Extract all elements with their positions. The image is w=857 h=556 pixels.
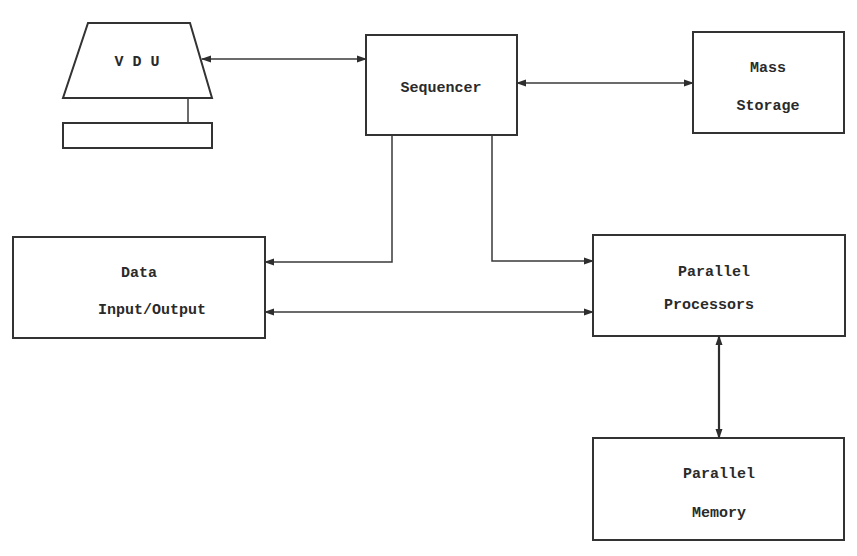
parallel-memory-box bbox=[593, 438, 844, 540]
mass-storage-label-line2: Storage bbox=[736, 98, 799, 115]
system-block-diagram: V D U Sequencer Mass Storage Data Input/… bbox=[0, 0, 857, 556]
parallel-processors-label-line1: Parallel bbox=[678, 264, 750, 281]
sequencer-label: Sequencer bbox=[400, 80, 481, 97]
vdu-keyboard-shape bbox=[63, 123, 212, 148]
parallel-processors-label-line2: Processors bbox=[664, 297, 754, 314]
data-io-node: Data Input/Output bbox=[13, 237, 265, 338]
parallel-processors-box bbox=[593, 235, 845, 336]
data-io-label-line1: Data bbox=[121, 265, 157, 282]
data-io-box bbox=[13, 237, 265, 338]
arrow-sequencer-parallel-processors bbox=[492, 135, 593, 261]
arrow-sequencer-data-io bbox=[265, 135, 392, 262]
vdu-label: V D U bbox=[114, 54, 159, 71]
mass-storage-node: Mass Storage bbox=[693, 32, 844, 133]
data-io-label-line2: Input/Output bbox=[98, 302, 206, 319]
parallel-memory-label-line2: Memory bbox=[692, 505, 746, 522]
sequencer-node: Sequencer bbox=[366, 35, 517, 135]
parallel-processors-node: Parallel Processors bbox=[593, 235, 845, 336]
mass-storage-box bbox=[693, 32, 844, 133]
parallel-memory-label-line1: Parallel bbox=[683, 466, 755, 483]
mass-storage-label-line1: Mass bbox=[750, 60, 786, 77]
parallel-memory-node: Parallel Memory bbox=[593, 438, 844, 540]
vdu-node: V D U bbox=[63, 23, 212, 148]
